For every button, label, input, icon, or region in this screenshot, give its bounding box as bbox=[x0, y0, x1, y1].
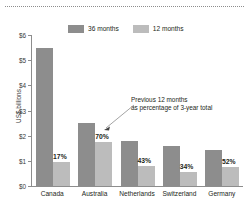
chart-annotation: Previous 12 months as percentage of 3-ye… bbox=[131, 96, 212, 112]
y-tick-label: $3 bbox=[19, 107, 26, 114]
legend-label-12-months: 12 months bbox=[153, 26, 184, 33]
y-tick-0: $0 bbox=[31, 186, 35, 187]
data-label-australia: 70% bbox=[95, 134, 109, 141]
annotation-line-1: Previous 12 months bbox=[131, 96, 212, 104]
chart-legend: 36 months 12 months bbox=[68, 25, 184, 33]
x-axis-category-labels: CanadaAustraliaNetherlandsSwitzerlandGer… bbox=[31, 190, 243, 197]
bar-36-months-australia[interactable] bbox=[78, 123, 95, 186]
y-tick-label: $1 bbox=[19, 157, 26, 164]
legend-label-36-months: 36 months bbox=[88, 26, 119, 33]
data-label-switzerland: 34% bbox=[180, 164, 194, 171]
bar-group-canada: 17% bbox=[32, 35, 74, 186]
data-label-canada: 17% bbox=[53, 154, 67, 161]
top-divider bbox=[5, 6, 244, 7]
bar-pair: 17% bbox=[36, 48, 70, 186]
category-label-canada: Canada bbox=[31, 190, 73, 197]
y-tick-label: $5 bbox=[19, 57, 26, 64]
y-tick-mark bbox=[28, 186, 32, 187]
x-axis-line bbox=[31, 186, 243, 187]
y-tick-label: $2 bbox=[19, 132, 26, 139]
bar-12-months-canada[interactable] bbox=[53, 162, 70, 186]
category-label-netherlands: Netherlands bbox=[116, 190, 158, 197]
bar-pair: 52% bbox=[205, 150, 239, 186]
legend-swatch-36-months bbox=[68, 25, 84, 33]
bar-36-months-germany[interactable] bbox=[205, 150, 222, 186]
bar-pair: 70% bbox=[78, 123, 112, 186]
y-tick-label: $6 bbox=[19, 32, 26, 39]
category-label-australia: Australia bbox=[73, 190, 115, 197]
bar-36-months-canada[interactable] bbox=[36, 48, 53, 186]
legend-item-12-months: 12 months bbox=[133, 25, 184, 33]
y-tick-label: $4 bbox=[19, 82, 26, 89]
bar-12-months-australia[interactable] bbox=[95, 142, 112, 186]
legend-swatch-12-months bbox=[133, 25, 149, 33]
legend-item-36-months: 36 months bbox=[68, 25, 119, 33]
bar-pair: 43% bbox=[121, 141, 155, 186]
bar-chart: 36 months 12 months US$ billions $6$5$4$… bbox=[0, 0, 249, 212]
data-label-netherlands: 43% bbox=[138, 158, 152, 165]
bar-12-months-germany[interactable] bbox=[222, 167, 239, 186]
bar-36-months-netherlands[interactable] bbox=[121, 141, 138, 186]
bar-12-months-switzerland[interactable] bbox=[180, 172, 197, 186]
bar-36-months-switzerland[interactable] bbox=[163, 146, 180, 186]
data-label-germany: 52% bbox=[222, 159, 236, 166]
y-axis-title: US$ billions bbox=[15, 89, 22, 123]
category-label-germany: Germany bbox=[201, 190, 243, 197]
y-tick-label: $0 bbox=[19, 183, 26, 190]
bar-pair: 34% bbox=[163, 146, 197, 186]
category-label-switzerland: Switzerland bbox=[158, 190, 200, 197]
bar-12-months-netherlands[interactable] bbox=[138, 166, 155, 186]
annotation-line-2: as percentage of 3-year total bbox=[131, 104, 212, 112]
annotation-arrow-icon bbox=[100, 104, 136, 132]
